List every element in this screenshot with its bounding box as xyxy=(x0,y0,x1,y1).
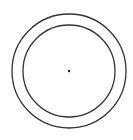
concentric-circles-diagram xyxy=(0,0,133,140)
center-point xyxy=(68,70,70,72)
